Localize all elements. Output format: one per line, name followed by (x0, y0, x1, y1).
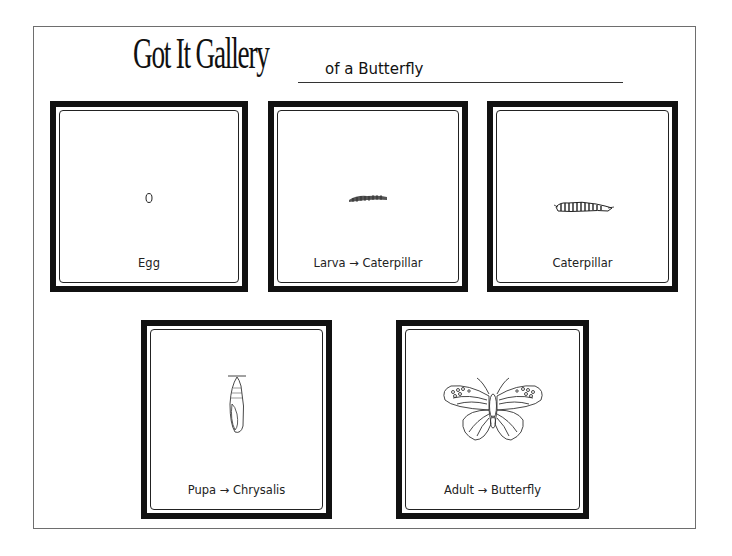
small-caterpillar-icon (347, 192, 389, 204)
card-label: Adult → Butterfly (402, 483, 583, 497)
caterpillar-icon (552, 199, 614, 215)
chrysalis-icon (225, 374, 249, 436)
card-label: Larva → Caterpillar (274, 256, 462, 270)
egg-icon (144, 191, 154, 205)
card-adult: Adult → Butterfly (396, 320, 589, 519)
card-label: Egg (56, 256, 242, 270)
card-caterpillar: Caterpillar (487, 101, 678, 292)
card-larva: Larva → Caterpillar (268, 101, 468, 292)
butterfly-icon (439, 376, 547, 444)
card-egg: Egg (50, 101, 248, 292)
card-label: Pupa → Chrysalis (147, 483, 326, 497)
page-subtitle: of a Butterfly (325, 60, 423, 78)
card-pupa: Pupa → Chrysalis (141, 320, 332, 519)
card-label: Caterpillar (493, 256, 672, 270)
title-underline (298, 82, 623, 83)
page-title: Got It Gallery (133, 32, 269, 76)
